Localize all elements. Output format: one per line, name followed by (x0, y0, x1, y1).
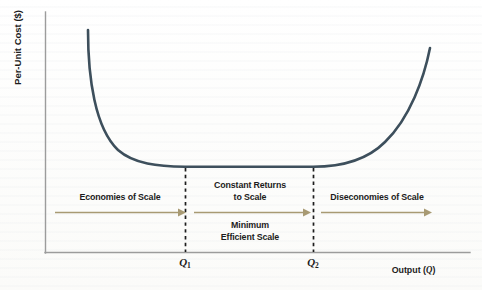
x-tick-label-q2: Q2 (307, 256, 319, 268)
x-axis-label-close: ) (432, 264, 435, 275)
q1-subscript: 1 (187, 261, 191, 270)
lrac-curve-figure: Per-Unit Cost ($) Economies of Scale Con… (0, 0, 482, 290)
region-label-economies-of-scale: Economies of Scale (80, 191, 161, 203)
x-axis-label: Output (Q) (392, 264, 436, 275)
region-label-minimum-efficient-scale-line1: Minimum (231, 219, 269, 231)
q2-variable: Q (307, 256, 315, 268)
x-tick-label-q1: Q1 (179, 256, 191, 268)
region-label-minimum-efficient-scale-line2: Efficient Scale (221, 231, 279, 243)
cost-curve-path (88, 30, 430, 167)
plot-area (0, 0, 482, 290)
x-axis-label-text: Output ( (392, 264, 426, 275)
region-label-diseconomies-of-scale: Diseconomies of Scale (330, 191, 423, 203)
q2-subscript: 2 (315, 261, 319, 270)
q1-variable: Q (179, 256, 187, 268)
economies-arrow (55, 209, 186, 217)
region-label-constant-returns-line2: to Scale (234, 191, 267, 203)
region-label-constant-returns-line1: Constant Returns (214, 179, 286, 191)
y-axis-label: Per-Unit Cost ($) (13, 10, 23, 130)
constant-returns-arrow (194, 209, 311, 217)
diseconomies-arrow (321, 209, 432, 217)
